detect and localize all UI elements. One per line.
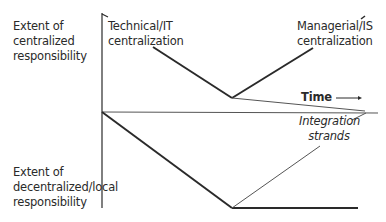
technical-centralization-line <box>153 47 232 98</box>
managerial-line-2: centralization <box>297 34 367 49</box>
y-top-line-2: centralized <box>13 34 87 49</box>
time-arrow-head-icon <box>358 96 362 100</box>
technical-line-1: Technical/IT <box>108 19 184 34</box>
integration-strand-upper <box>232 98 365 111</box>
y-axis-top-label: Extent of centralized responsibility <box>13 19 87 64</box>
axis-top-tick <box>102 14 108 17</box>
time-label-text: Time <box>301 90 332 105</box>
integration-line-1: Integration <box>299 114 359 129</box>
technical-centralization-label: Technical/IT centralization <box>108 19 184 49</box>
managerial-centralization-label: Managerial/IS centralization <box>297 19 367 49</box>
y-top-line-3: responsibility <box>13 49 87 64</box>
integration-strands-label: Integration strands <box>299 114 359 144</box>
integration-line-2: strands <box>299 129 359 144</box>
y-axis-bottom-label: Extent of decentralized/local responsibi… <box>13 165 118 210</box>
y-bottom-line-1: Extent of <box>13 165 118 180</box>
integration-strand-lower <box>232 146 320 208</box>
time-axis <box>102 112 378 113</box>
y-top-line-1: Extent of <box>13 19 87 34</box>
time-axis-label: Time <box>301 90 332 105</box>
managerial-line-1: Managerial/IS <box>297 19 367 34</box>
y-bottom-line-2: decentralized/local <box>13 180 118 195</box>
technical-line-2: centralization <box>108 34 184 49</box>
y-bottom-line-3: responsibility <box>13 195 118 210</box>
decentralized-decline-line <box>102 112 232 208</box>
